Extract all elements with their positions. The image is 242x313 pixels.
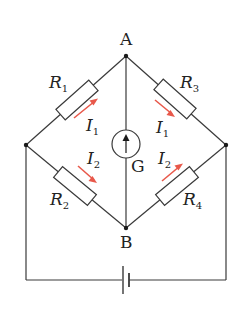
wheatstone-bridge-diagram: A B G R1 R3 R2 R4 I1 I1 I2 I2 [0, 0, 242, 313]
node-b-dot [124, 226, 128, 230]
node-left-dot [24, 143, 28, 147]
label-node-b: B [120, 232, 133, 252]
label-r3: R3 [179, 72, 199, 94]
label-r2: R2 [49, 189, 69, 211]
label-r4: R4 [182, 189, 202, 211]
node-right-dot [224, 143, 228, 147]
label-i1-left: I1 [85, 115, 99, 137]
galvanometer [112, 130, 140, 158]
label-galvanometer: G [131, 156, 145, 176]
node-a-dot [124, 54, 128, 58]
label-i1-right: I1 [155, 117, 169, 139]
label-i2-right: I2 [157, 148, 171, 170]
label-r1: R1 [48, 72, 68, 94]
label-i2-left: I2 [86, 148, 100, 170]
label-node-a: A [119, 29, 133, 49]
